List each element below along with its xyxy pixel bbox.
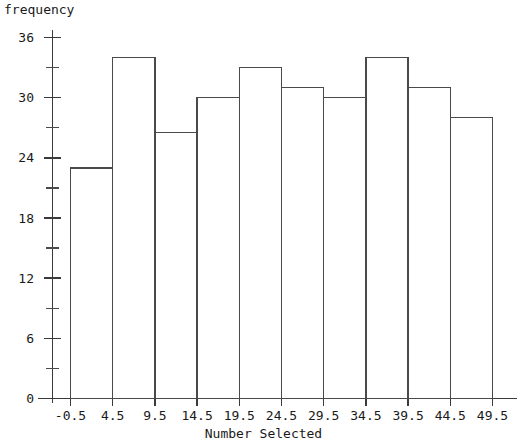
x-tick-label: 24.5 — [266, 408, 297, 423]
y-tick-label: 24 — [18, 150, 34, 165]
y-tick-label: 12 — [18, 271, 34, 286]
histogram-bar — [408, 88, 450, 399]
histogram-bar — [71, 168, 113, 399]
y-tick-label: 6 — [26, 331, 34, 346]
x-tick-label: 29.5 — [308, 408, 339, 423]
x-axis-title: Number Selected — [0, 426, 527, 441]
histogram-bar — [197, 98, 239, 399]
y-tick-label-group: 061218243036 — [18, 30, 34, 406]
x-tick-label: 9.5 — [143, 408, 166, 423]
y-tick-label: 18 — [18, 211, 34, 226]
x-tick-label: 49.5 — [477, 408, 508, 423]
x-tick-label: 19.5 — [224, 408, 255, 423]
histogram-bar — [239, 68, 281, 399]
x-tick-label: -0.5 — [55, 408, 86, 423]
x-tick-label: 4.5 — [101, 408, 124, 423]
histogram-chart: frequency 061218243036 -0.54.59.514.519.… — [0, 0, 527, 445]
histogram-bar — [366, 58, 408, 399]
histogram-bar — [282, 88, 324, 399]
y-tick-label: 30 — [18, 90, 34, 105]
plot-area: 061218243036 -0.54.59.514.519.524.529.53… — [0, 0, 527, 445]
y-tick-label: 0 — [26, 391, 34, 406]
x-tick-label: 39.5 — [392, 408, 423, 423]
histogram-bar — [155, 133, 197, 399]
bar-group — [71, 58, 493, 399]
x-tick-label: 14.5 — [181, 408, 212, 423]
histogram-bar — [113, 58, 155, 399]
histogram-bar — [324, 98, 366, 399]
y-tick-label: 36 — [18, 30, 34, 45]
x-tick-label: 34.5 — [350, 408, 381, 423]
histogram-bar — [450, 118, 492, 399]
x-tick-label: 44.5 — [435, 408, 466, 423]
x-tick-label-group: -0.54.59.514.519.524.529.534.539.544.549… — [55, 408, 508, 423]
